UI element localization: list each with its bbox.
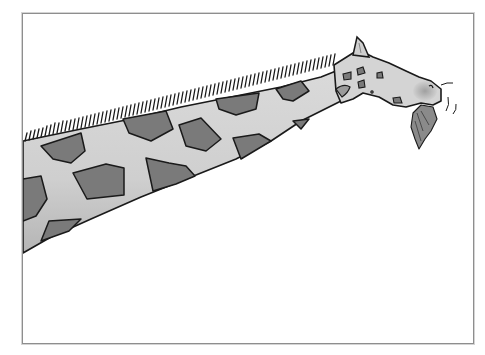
ear-icon: [353, 37, 369, 57]
giraffe-head: [334, 37, 456, 114]
leaves: [411, 105, 437, 149]
illustration-frame: Giraffe illustration: [22, 13, 474, 344]
giraffe-illustration: [23, 14, 473, 343]
